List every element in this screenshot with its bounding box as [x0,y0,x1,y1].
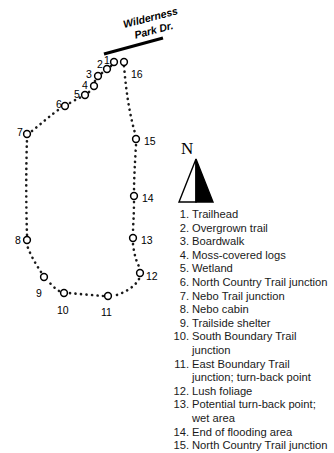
legend-item: 2.Overgrown trail [170,222,334,236]
legend-item-label: East Boundary Trail junction; turn-back … [192,358,334,385]
trail-point-label: 2 [97,59,103,70]
legend-item: 3.Boardwalk [170,235,334,249]
legend-item-number: 13. [170,398,192,412]
legend-item-number: 11. [170,358,192,372]
trail-feature-legend: 1.Trailhead2.Overgrown trail3.Boardwalk4… [170,208,334,453]
trail-point-marker [131,193,138,200]
trail-point-marker [121,59,128,66]
trail-point-label: 16 [131,69,143,80]
legend-item: 11.East Boundary Trail junction; turn-ba… [170,358,334,385]
legend-item: 6.North Country Trail junction [170,276,334,290]
trail-point-label: 9 [36,288,42,299]
legend-item-label: Nebo cabin [192,303,334,317]
legend-item-label: Wetland [192,262,334,276]
legend-item-label: North Country Trail junction [192,276,334,290]
trail-point-marker [133,136,140,143]
legend-item-number: 1. [170,208,192,222]
trail-point-marker [24,131,31,138]
legend-item: 5.Wetland [170,262,334,276]
legend-item: 4.Moss-covered logs [170,249,334,263]
trail-point-marker [41,274,48,281]
compass-left-half [179,159,196,202]
legend-item-number: 15. [170,439,192,453]
trail-segment-15-14 [134,145,136,191]
trail-segment-7-6 [32,108,61,131]
legend-item-number: 4. [170,249,192,263]
legend-item: 9.Trailside shelter [170,317,334,331]
trail-point-label: 11 [101,307,112,318]
trail-point-marker [91,83,98,90]
legend-item-number: 12. [170,385,192,399]
legend-item: 10.South Boundary Trail junction [170,330,334,357]
trail-segment-8-7 [26,139,27,235]
trail-segment-12-11 [113,279,139,296]
trail-segment-9-8 [27,245,41,272]
trail-point-marker [82,92,89,99]
trail-point-marker [24,237,31,244]
legend-item: 8.Nebo cabin [170,303,334,317]
legend-item-label: Nebo Trail junction [192,290,334,304]
trail-point-label: 8 [15,235,21,246]
legend-item-label: Trailhead [192,208,334,222]
legend-item: 1.Trailhead [170,208,334,222]
trail-segment-14-13 [133,202,134,233]
legend-item-label: North Country Trail junction [192,439,334,453]
compass-north-letter: N [181,140,193,157]
legend-item: 13.Potential turn-back point; wet area [170,398,334,425]
trail-segment-11-10 [69,293,103,296]
trail-point-label: 12 [146,271,158,282]
legend-item-number: 6. [170,276,192,290]
legend-item-number: 7. [170,290,192,304]
legend-item-label: Moss-covered logs [192,249,334,263]
trail-point-label: 6 [56,99,62,110]
legend-item-number: 10. [170,330,192,344]
trail-point-marker [61,290,68,297]
trail-point-label: 10 [57,305,69,316]
trail-point-marker [105,293,112,300]
trail-segment-10-9 [47,280,59,291]
legend-item-number: 14. [170,426,192,440]
legend-item-label: South Boundary Trail junction [192,330,334,357]
legend-item-label: Overgrown trail [192,222,334,236]
legend-item-label: Boardwalk [192,235,334,249]
legend-item: 15.North Country Trail junction [170,439,334,453]
trail-point-label: 5 [74,89,80,100]
trail-point-marker [62,103,69,110]
trail-route-dotted [26,64,140,296]
legend-item-number: 8. [170,303,192,317]
compass-north-icon [176,158,216,204]
legend-item-number: 2. [170,222,192,236]
trail-segment-13-12 [133,244,140,268]
trail-point-marker [95,73,102,80]
trail-point-label: 4 [82,80,88,91]
legend-item-label: Trailside shelter [192,317,334,331]
trail-point-marker [111,59,118,66]
legend-item-number: 3. [170,235,192,249]
legend-item: 7.Nebo Trail junction [170,290,334,304]
trail-point-label: 7 [17,127,23,138]
trail-point-label: 13 [141,235,153,246]
road-line [104,38,163,54]
legend-item-number: 5. [170,262,192,276]
legend-item-number: 9. [170,317,192,331]
compass-right-half [196,159,213,202]
trail-point-label: 14 [142,193,154,204]
trail-point-marker [137,270,144,277]
legend-item-label: Potential turn-back point; wet area [192,398,334,425]
trail-point-marker [104,66,111,73]
legend-item-label: Lush foliage [192,385,334,399]
legend-item: 12.Lush foliage [170,385,334,399]
trail-point-markers [24,59,144,300]
trail-point-label: 1 [104,55,110,66]
trail-point-marker [130,235,137,242]
legend-item-label: End of flooding area [192,426,334,440]
legend-item: 14.End of flooding area [170,426,334,440]
trail-point-label: 15 [144,136,156,147]
